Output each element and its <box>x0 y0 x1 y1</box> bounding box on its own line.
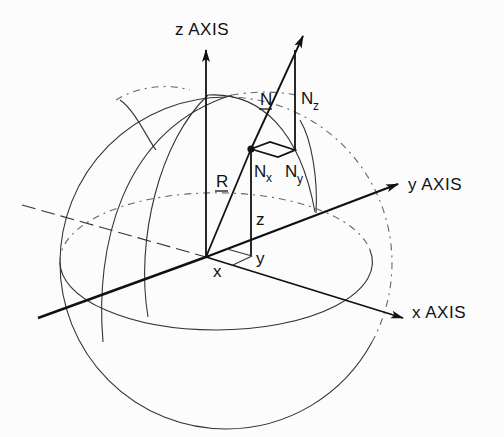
svg-text:N: N <box>301 89 313 108</box>
nz-label: N z <box>301 89 319 113</box>
y-axis-line <box>206 184 398 257</box>
coord-x-label: x <box>213 262 222 281</box>
z-axis-label: z AXIS <box>175 20 229 39</box>
x-axis-back <box>38 257 206 318</box>
x-axis-label: x AXIS <box>412 303 466 322</box>
x-axis-line <box>206 257 403 318</box>
y-axis-label: y AXIS <box>408 175 462 194</box>
coordinate-sphere-diagram: z AXIS y AXIS x AXIS N R N z N x N y z y… <box>0 0 504 437</box>
svg-text:N: N <box>285 162 297 181</box>
coord-z-label: z <box>256 210 265 229</box>
position-vector-label: R <box>216 172 228 191</box>
nx-label: N x <box>254 162 272 185</box>
y-axis-back <box>22 205 206 257</box>
coord-y-label: y <box>256 249 265 268</box>
ny-label: N y <box>285 162 303 186</box>
svg-text:x: x <box>266 171 272 185</box>
svg-text:N: N <box>254 162 266 181</box>
svg-text:y: y <box>297 172 303 186</box>
normal-vector-N <box>251 36 303 157</box>
normal-vector-label: N <box>260 90 272 109</box>
svg-text:z: z <box>313 99 319 113</box>
